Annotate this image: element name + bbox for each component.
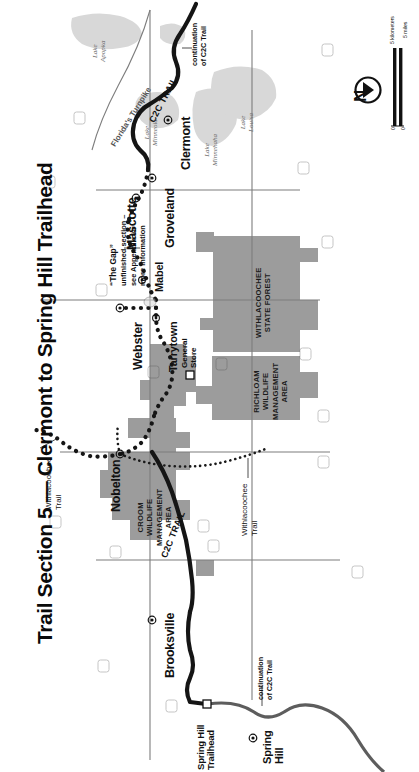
- city-marker-groveland: [148, 174, 156, 182]
- annotation-the-gap-l2: see Appendix for: [129, 215, 139, 286]
- annotation-the-gap-title: “The Gap”: [108, 215, 119, 286]
- lake-label-apopka: Lake Apopka: [92, 41, 107, 62]
- trailhead-label-line2: Trailhead: [206, 725, 216, 770]
- city-marker-spring-hill: [249, 734, 257, 742]
- city-label-brooksville: Brooksville: [164, 613, 178, 678]
- city-label-nobelton: Nobelton: [110, 459, 124, 512]
- highway-shield-13: [166, 700, 177, 712]
- lake-label-minnehaha: Lake Minnehaha: [204, 134, 219, 166]
- highway-shield-10: [110, 546, 121, 558]
- highway-shield-9: [208, 540, 219, 552]
- annotation-continuation-south: continuation of C2C Trail: [256, 657, 274, 700]
- scale-bar-zero-left: 0: [391, 127, 397, 130]
- lake-label-apopka-l2: Apopka: [100, 41, 108, 62]
- highway-shield-8: [318, 456, 329, 468]
- annotation-continuation-north-l1: continuation: [190, 23, 199, 66]
- highway-layer: [208, 703, 384, 772]
- trailhead-marker-spring-hill: [203, 700, 211, 708]
- public-land-polygon-sliver: [196, 560, 214, 576]
- annotation-general-store-l2: Store: [189, 338, 198, 368]
- north-arrow-label: N: [352, 90, 370, 102]
- highway-spring-hill-gap: [272, 708, 280, 710]
- highway-shield-476-on-trail: [144, 297, 156, 307]
- public-land-polygon-south: [196, 232, 214, 252]
- page-title: Trail Section 5 — Clermont to Spring Hil…: [33, 44, 57, 644]
- trail-label-withlacoochee-south-l2: Trail: [250, 484, 260, 536]
- richloam-l4: AREA: [280, 363, 289, 420]
- croom-l4: AREA: [164, 489, 173, 546]
- city-marker-webster: [116, 304, 124, 312]
- public-land-label-croom-wma: CROOM WILDLIFE MANAGEMENT AREA: [136, 489, 174, 546]
- c2c-trail-segment-southwest: [187, 612, 206, 704]
- richloam-l2: WILDLIFE: [261, 363, 270, 420]
- city-label-spring-hill: Spring Hill SpringHill: [262, 730, 286, 764]
- highway-shield-3: [298, 162, 309, 174]
- scale-bar: [391, 48, 404, 126]
- public-land-label-withlacoochee-state-forest: WITHLACOOCHEE STATE FOREST: [254, 267, 273, 338]
- city-label-groveland: Groveland: [164, 188, 178, 248]
- annotation-the-gap-l1: unfinished section –: [119, 215, 129, 286]
- trail-label-withlacoochee-west-l2: Trail: [54, 458, 64, 510]
- scale-bar-label-kilometers: 5 kilometers: [390, 16, 396, 44]
- withlacoochee-trail-path-north: [117, 424, 120, 454]
- highway-shield-12: [98, 660, 109, 672]
- lake-label-louisa: Lake Louisa: [240, 113, 255, 132]
- highway-shield-11: [352, 566, 363, 578]
- city-label-clermont: Clermont: [180, 117, 194, 170]
- annotation-general-store-l1: General: [180, 338, 189, 368]
- highway-shield-16: [198, 520, 209, 532]
- public-land-polygon-north: [128, 418, 190, 448]
- city-label-mabel: Mabel: [154, 262, 166, 292]
- croom-l1: CROOM: [136, 489, 145, 546]
- annotation-continuation-south-l1: continuation: [256, 657, 265, 700]
- city-label-webster: Webster: [132, 322, 146, 370]
- map-canvas: [0, 0, 419, 772]
- annotation-continuation-south-l2: of C2C Trail: [265, 657, 274, 700]
- public-land-label-richloam-wma: RICHLOAM WILDLIFE MANAGEMENT AREA: [252, 363, 290, 420]
- highway-shield-5: [300, 348, 311, 360]
- richloam-l1: RICHLOAM: [252, 363, 261, 420]
- wsf-l1: WITHLACOOCHEE: [254, 267, 263, 338]
- lake-label-minnehaha-l2: Minnehaha: [212, 134, 220, 166]
- trail-label-withlacoochee-west: Withlacoochee Trail: [44, 458, 64, 510]
- trail-map-page: Trail Section 5 — Clermont to Spring Hil…: [0, 0, 419, 772]
- city-marker-brooksville: [148, 616, 156, 624]
- annotation-continuation-north-l2: of C2C Trail: [199, 23, 208, 66]
- highway-shield-7: [318, 410, 329, 422]
- trail-label-withlacoochee-south-l1: Withlacoochee: [240, 484, 250, 536]
- annotation-general-store: General Store: [180, 338, 198, 368]
- annotation-the-gap: “The Gap” unfinished section – see Appen…: [108, 215, 148, 286]
- annotation-the-gap-l3: more information: [138, 215, 148, 286]
- highway-shield-1: [322, 44, 333, 56]
- highway-spring-hill: [208, 703, 384, 772]
- highway-shield-2: [74, 112, 85, 124]
- richloam-l3: MANAGEMENT: [271, 363, 280, 420]
- wsf-l2: STATE FOREST: [263, 267, 272, 338]
- scale-bar-zero-right: 0: [401, 127, 407, 130]
- annotation-continuation-north: continuation of C2C Trail: [190, 23, 208, 66]
- trail-label-withlacoochee-west-l1: Withlacoochee: [44, 458, 54, 510]
- trail-label-withlacoochee-south: Withlacoochee Trail: [240, 484, 260, 536]
- scale-bar-label-miles: 5 miles: [403, 22, 409, 38]
- lake-label-louisa-l2: Louisa: [248, 113, 256, 132]
- highway-shield-14: [96, 284, 107, 296]
- city-label-tarrytown: Tarrytown: [168, 321, 180, 372]
- croom-l2: WILDLIFE: [145, 489, 154, 546]
- trailhead-label-spring-hill: Spring Hill Trailhead: [196, 725, 217, 770]
- general-store-marker: [186, 371, 194, 379]
- highway-shield-18: [322, 236, 333, 248]
- croom-l3: MANAGEMENT: [155, 489, 164, 546]
